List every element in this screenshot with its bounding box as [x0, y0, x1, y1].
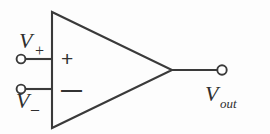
v-plus-base: V [19, 28, 33, 53]
opamp-diagram-canvas [0, 0, 270, 134]
non-inverting-input-terminal [17, 55, 26, 64]
v-plus-label: V+ [19, 30, 44, 55]
v-minus-subscript: – [31, 100, 39, 117]
output-terminal [217, 65, 226, 74]
v-out-subscript: out [220, 96, 237, 111]
v-minus-base: V [16, 88, 30, 113]
v-out-base: V [205, 81, 219, 106]
non-inverting-plus-sign: + [61, 48, 73, 69]
v-plus-subscript: + [34, 42, 45, 59]
v-minus-label: V– [16, 90, 38, 115]
inverting-minus-sign: — [61, 78, 81, 99]
opamp-schematic-figure: V+ V– Vout + — [0, 0, 270, 134]
amplifier-triangle [52, 12, 172, 128]
v-out-label: Vout [205, 83, 236, 107]
